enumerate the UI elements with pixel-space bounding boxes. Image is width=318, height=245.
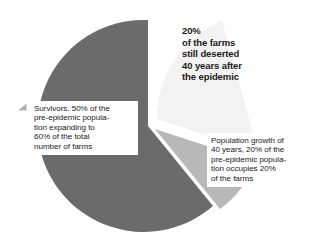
callout-population-growth-line-5: of the farms: [211, 174, 302, 183]
callout-still-deserted-line-2: of the farms: [182, 37, 278, 49]
callout-still-deserted-line-3: still deserted: [182, 48, 278, 60]
callout-population-growth-line-1: Population growth of: [211, 136, 302, 145]
pie-chart-figure: 20% of the farms still deserted 40 years…: [0, 0, 318, 245]
callout-population-growth: Population growth of 40 years, 20% of th…: [207, 133, 305, 187]
callout-still-deserted: 20% of the farms still deserted 40 years…: [182, 25, 278, 83]
callout-still-deserted-line-4: 40 years after: [182, 60, 278, 72]
callout-survivors-line-3: tion expanding to: [34, 123, 135, 132]
callout-population-growth-line-2: 40 years, 20% of the: [211, 145, 302, 154]
callout-population-growth-line-4: tion occupies 20%: [211, 164, 302, 173]
callout-still-deserted-line-1: 20%: [182, 25, 278, 37]
callout-still-deserted-line-5: the epidemic: [182, 71, 278, 83]
callout-survivors-line-4: 60% of the total: [34, 132, 135, 141]
callout-survivors: Survivors. 50% of the pre-epidemic popul…: [30, 101, 138, 155]
callout-pointer-icon: [18, 103, 27, 111]
callout-survivors-line-2: pre-epidemic popula-: [34, 113, 135, 122]
callout-survivors-line-1: Survivors. 50% of the: [34, 104, 135, 113]
callout-survivors-line-5: number of farms: [34, 142, 135, 151]
callout-population-growth-line-3: pre-epidemic popula-: [211, 155, 302, 164]
